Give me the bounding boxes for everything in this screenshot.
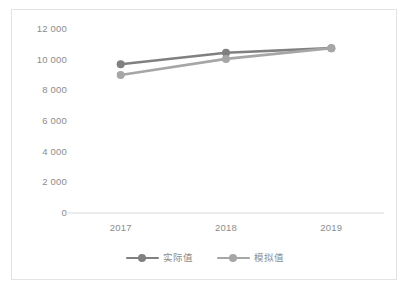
x-tick-label: 2019 <box>320 222 342 233</box>
legend-marker-simulated <box>229 254 237 262</box>
legend-swatch-actual <box>126 253 159 263</box>
legend-swatch-simulated <box>217 253 250 263</box>
legend-item-simulated[interactable]: 模拟值 <box>217 253 284 263</box>
legend-label-simulated: 模拟值 <box>254 253 284 263</box>
chart-container: 02 0004 0006 0008 00010 00012 000 201720… <box>11 9 397 280</box>
x-axis: 201720182019 <box>12 10 398 281</box>
chart-legend: 实际值 模拟值 <box>12 253 398 263</box>
legend-marker-actual <box>138 254 146 262</box>
x-tick-label: 2018 <box>215 222 237 233</box>
x-tick-label: 2017 <box>110 222 132 233</box>
legend-label-actual: 实际值 <box>163 253 193 263</box>
legend-item-actual[interactable]: 实际值 <box>126 253 193 263</box>
